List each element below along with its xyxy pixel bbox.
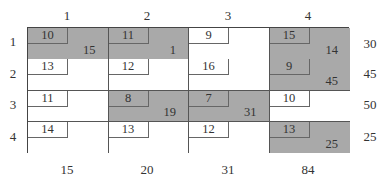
column-label: 2 <box>107 8 187 24</box>
tableau-cell: 1325 <box>270 122 351 154</box>
allocation-value: 31 <box>244 105 257 120</box>
supply-value: 25 <box>356 129 384 145</box>
cost-box: 7 <box>189 91 229 107</box>
tableau-cell: 731 <box>189 91 270 123</box>
allocation-value: 1 <box>170 43 176 58</box>
cost-box: 13 <box>28 59 68 75</box>
cost-box: 13 <box>270 122 310 138</box>
allocation-value: 25 <box>326 137 339 152</box>
row-label: 1 <box>6 34 20 50</box>
column-label: 4 <box>268 8 348 24</box>
tableau-cell: 9 <box>189 28 270 60</box>
cost-box: 15 <box>270 28 310 44</box>
allocation-value: 45 <box>326 74 339 89</box>
tableau-cell: 1514 <box>270 28 351 60</box>
demand-value: 15 <box>27 162 107 178</box>
tableau-cell: 12 <box>189 122 270 154</box>
allocation-value: 19 <box>164 105 177 120</box>
row-label: 2 <box>6 66 20 82</box>
allocation-value: 15 <box>83 43 96 58</box>
supply-value: 45 <box>356 66 384 82</box>
tableau-grid: 1015111915141312169451181973110141312132… <box>27 27 349 153</box>
tableau-cell: 16 <box>189 59 270 91</box>
cost-box: 10 <box>28 28 68 44</box>
tableau-cell: 14 <box>28 122 109 154</box>
column-label: 1 <box>27 8 107 24</box>
tableau-cell: 12 <box>109 59 190 91</box>
cost-box: 8 <box>109 91 149 107</box>
tableau-cell: 13 <box>109 122 190 154</box>
row-label: 4 <box>6 129 20 145</box>
supply-value: 50 <box>356 97 384 113</box>
demand-value: 31 <box>188 162 268 178</box>
demand-value: 84 <box>268 162 348 178</box>
tableau-cell: 10 <box>270 91 351 123</box>
cost-box: 16 <box>189 59 229 75</box>
cost-box: 14 <box>28 122 68 138</box>
cost-box: 9 <box>270 59 310 75</box>
cost-box: 13 <box>109 122 149 138</box>
column-label: 3 <box>188 8 268 24</box>
allocation-value: 14 <box>326 43 339 58</box>
row-label: 3 <box>6 97 20 113</box>
supply-value: 30 <box>356 36 384 52</box>
tableau-cell: 11 <box>28 91 109 123</box>
cost-box: 11 <box>28 91 68 107</box>
tableau-cell: 1015 <box>28 28 109 60</box>
tableau-cell: 945 <box>270 59 351 91</box>
cost-box: 10 <box>270 91 310 107</box>
cost-box: 11 <box>109 28 149 44</box>
cost-box: 12 <box>189 122 229 138</box>
tableau-cell: 819 <box>109 91 190 123</box>
tableau-cell: 13 <box>28 59 109 91</box>
demand-value: 20 <box>107 162 187 178</box>
tableau-cell: 111 <box>109 28 190 60</box>
cost-box: 12 <box>109 59 149 75</box>
cost-box: 9 <box>189 28 229 44</box>
